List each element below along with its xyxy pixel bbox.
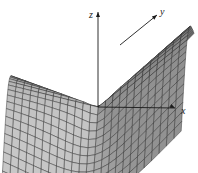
mesh-cell: [71, 162, 79, 172]
z-axis-label: z: [88, 9, 93, 20]
mesh-cell: [89, 122, 97, 131]
mesh-cell: [80, 138, 88, 148]
mesh-cell: [79, 155, 87, 164]
mesh-cell: [80, 147, 88, 156]
mesh-cell: [72, 153, 80, 163]
y-axis: [120, 15, 157, 45]
y-axis-label: y: [159, 6, 165, 17]
mesh-cell: [88, 139, 96, 148]
z-axis-arrowhead-icon: [96, 12, 100, 17]
mesh-cell: [89, 113, 97, 123]
mesh-cell: [87, 147, 95, 156]
mesh-cell: [87, 155, 95, 164]
x-axis-label: x: [180, 105, 186, 116]
surface-plot: z y x: [0, 0, 198, 173]
mesh-cell: [88, 131, 96, 140]
mesh-cell: [79, 164, 87, 172]
mesh-cell: [78, 172, 86, 173]
